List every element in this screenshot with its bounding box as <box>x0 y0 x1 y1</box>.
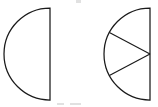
top-crop-mark <box>76 0 81 3</box>
bottom-crop-mark-right <box>70 103 81 105</box>
fraction-figure-canvas <box>0 0 158 107</box>
bottom-crop-mark-left <box>57 103 64 105</box>
